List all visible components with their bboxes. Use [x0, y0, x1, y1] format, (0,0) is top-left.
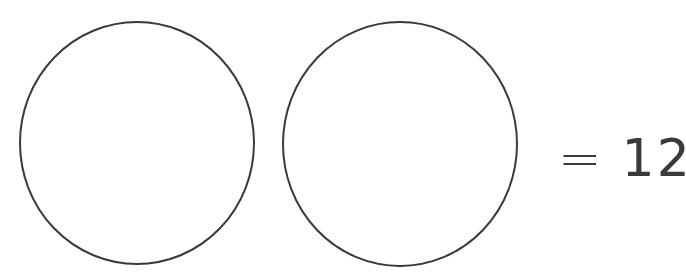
equation-value: 12: [622, 128, 686, 188]
equation: =12: [558, 128, 686, 188]
equals-sign: =: [558, 128, 604, 188]
circle-2: [283, 22, 517, 266]
circle-1: [20, 22, 254, 264]
